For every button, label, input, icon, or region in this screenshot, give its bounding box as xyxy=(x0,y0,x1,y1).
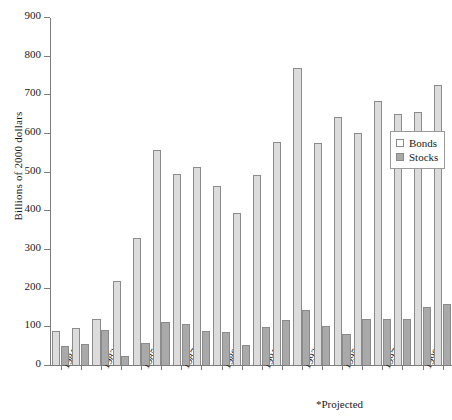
y-tick-mark xyxy=(44,133,50,134)
bar-group xyxy=(434,364,451,365)
y-tick-mark xyxy=(44,249,50,250)
bar-bonds-1986[interactable] xyxy=(153,150,161,365)
y-tick-label: 300 xyxy=(25,241,42,253)
bar-bonds-1996[interactable] xyxy=(354,133,362,365)
bar-stocks-2000[interactable] xyxy=(443,304,451,365)
y-axis-line xyxy=(50,18,51,366)
bar-group xyxy=(394,364,411,365)
bar-stocks-1994[interactable] xyxy=(322,326,330,365)
bar-bonds-1983[interactable] xyxy=(92,319,100,365)
x-tick-mark xyxy=(443,366,444,370)
bar-bonds-2000[interactable] xyxy=(434,85,442,365)
bar-group xyxy=(52,364,69,365)
bar-bonds-1994[interactable] xyxy=(314,143,322,365)
bar-group xyxy=(414,364,431,365)
y-axis-label: Billions of 2000 dollars xyxy=(12,76,24,256)
bar-stocks-1998[interactable] xyxy=(403,319,411,365)
plot-area: 0100200300400500600700800900 19811983198… xyxy=(50,18,452,366)
y-tick-label: 100 xyxy=(25,318,42,330)
bar-group xyxy=(273,364,290,365)
x-tick-mark xyxy=(121,366,122,370)
x-tick-mark xyxy=(322,366,323,370)
bar-group xyxy=(253,364,270,365)
bar-bonds-1984[interactable] xyxy=(113,281,121,365)
bar-stocks-1995[interactable] xyxy=(342,334,350,365)
x-tick-mark xyxy=(61,366,62,370)
y-tick-mark xyxy=(44,94,50,95)
legend-swatch-bonds-icon xyxy=(396,139,404,147)
bar-group xyxy=(173,364,190,365)
x-tick-mark xyxy=(222,366,223,370)
bar-group xyxy=(133,364,150,365)
legend-item-stocks[interactable]: Stocks xyxy=(396,150,438,164)
bar-group xyxy=(113,364,130,365)
bar-stocks-1983[interactable] xyxy=(101,330,109,365)
y-tick-mark xyxy=(44,210,50,211)
legend-label-stocks: Stocks xyxy=(409,150,438,164)
bar-group xyxy=(153,364,170,365)
y-tick-label: 400 xyxy=(25,202,42,214)
bar-stocks-1984[interactable] xyxy=(121,356,129,365)
bar-stocks-1990[interactable] xyxy=(242,345,250,365)
x-tick-mark xyxy=(423,366,424,370)
bar-group xyxy=(314,364,331,365)
x-tick-mark xyxy=(81,366,82,370)
bar-stocks-1988[interactable] xyxy=(202,331,210,365)
y-tick-label: 600 xyxy=(25,125,42,137)
bar-stocks-1993[interactable] xyxy=(302,310,310,365)
bar-bonds-1997[interactable] xyxy=(374,101,382,365)
bar-chart: Billions of 2000 dollars 010020030040050… xyxy=(0,0,452,420)
bar-bonds-1991[interactable] xyxy=(253,175,261,365)
bar-bonds-1981[interactable] xyxy=(52,331,60,365)
bar-group xyxy=(334,364,351,365)
y-tick-label: 800 xyxy=(25,48,42,60)
bar-group xyxy=(92,364,109,365)
bar-bonds-1995[interactable] xyxy=(334,117,342,365)
bar-group xyxy=(354,364,371,365)
bar-stocks-1999[interactable] xyxy=(423,307,431,365)
bar-bonds-1992[interactable] xyxy=(273,142,281,365)
bar-bonds-1989[interactable] xyxy=(213,186,221,365)
bar-stocks-1987[interactable] xyxy=(182,324,190,365)
y-tick-mark xyxy=(44,172,50,173)
bar-stocks-1989[interactable] xyxy=(222,332,230,365)
bar-stocks-1996[interactable] xyxy=(362,319,370,365)
y-tick-mark xyxy=(44,56,50,57)
bar-stocks-1986[interactable] xyxy=(161,322,169,365)
bar-bonds-1993[interactable] xyxy=(293,68,301,365)
x-tick-mark xyxy=(262,366,263,370)
bar-group xyxy=(193,364,210,365)
x-tick-mark xyxy=(362,366,363,370)
bar-stocks-1982[interactable] xyxy=(81,344,89,365)
bar-group xyxy=(233,364,250,365)
bar-stocks-1985[interactable] xyxy=(141,343,149,365)
legend-swatch-stocks-icon xyxy=(396,153,404,161)
bar-group xyxy=(293,364,310,365)
y-tick-label: 0 xyxy=(36,357,42,369)
y-tick-mark xyxy=(44,17,50,18)
x-tick-mark xyxy=(101,366,102,370)
bar-stocks-1997[interactable] xyxy=(383,319,391,365)
y-tick-label: 700 xyxy=(25,86,42,98)
x-tick-mark xyxy=(161,366,162,370)
x-tick-mark xyxy=(302,366,303,370)
x-tick-mark xyxy=(402,366,403,370)
chart-legend: Bonds Stocks xyxy=(390,131,445,169)
bar-group xyxy=(374,364,391,365)
y-tick-label: 900 xyxy=(25,9,42,21)
bar-stocks-1992[interactable] xyxy=(282,320,290,365)
bar-group xyxy=(72,364,89,365)
y-tick-label: 200 xyxy=(25,280,42,292)
bar-bonds-1987[interactable] xyxy=(173,174,181,365)
y-tick-mark xyxy=(44,288,50,289)
bar-group xyxy=(213,364,230,365)
bar-stocks-1991[interactable] xyxy=(262,327,270,365)
bar-bonds-1990[interactable] xyxy=(233,213,241,365)
bar-bonds-1988[interactable] xyxy=(193,167,201,365)
bar-bonds-1982[interactable] xyxy=(72,328,80,366)
y-tick-mark xyxy=(44,365,50,366)
bar-stocks-1981[interactable] xyxy=(61,346,69,365)
legend-item-bonds[interactable]: Bonds xyxy=(396,136,438,150)
bar-bonds-1985[interactable] xyxy=(133,238,141,365)
legend-label-bonds: Bonds xyxy=(409,136,437,150)
